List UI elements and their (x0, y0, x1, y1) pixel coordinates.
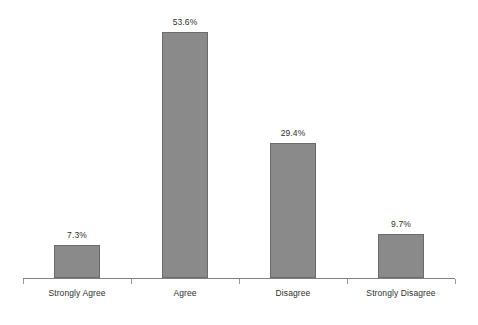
x-axis-tick (239, 279, 240, 284)
bar-chart: 7.3%Strongly Agree53.6%Agree29.4%Disagre… (0, 0, 478, 325)
x-axis-category-label: Agree (125, 288, 245, 298)
x-axis-tick (455, 279, 456, 284)
bar-disagree (270, 143, 316, 278)
x-axis-tick (131, 279, 132, 284)
bar-strongly-disagree (378, 234, 424, 278)
bar-value-label: 29.4% (253, 128, 333, 138)
bar-agree (162, 32, 208, 278)
bar-strongly-agree (54, 245, 100, 278)
x-axis-category-label: Strongly Agree (17, 288, 137, 298)
bar-value-label: 53.6% (145, 17, 225, 27)
plot-area: 7.3%Strongly Agree53.6%Agree29.4%Disagre… (0, 0, 478, 325)
bar-value-label: 9.7% (361, 219, 441, 229)
x-axis-category-label: Disagree (233, 288, 353, 298)
x-axis-tick (347, 279, 348, 284)
x-axis-category-label: Strongly Disagree (341, 288, 461, 298)
bar-value-label: 7.3% (37, 230, 117, 240)
x-axis-tick (23, 279, 24, 284)
